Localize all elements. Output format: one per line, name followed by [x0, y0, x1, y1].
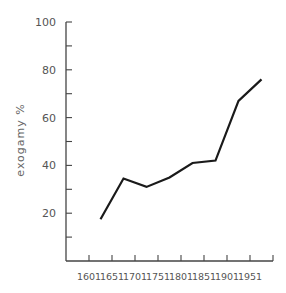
x-tick-label: 1801	[169, 271, 193, 282]
y-tick-label: 100	[35, 16, 56, 29]
y-tick-label: 40	[42, 159, 56, 172]
series-line-exogamy	[101, 79, 262, 219]
x-tick-label: 1651	[100, 271, 124, 282]
x-tick-label: 1901	[215, 271, 239, 282]
y-tick-label: 60	[42, 112, 56, 125]
data-series	[101, 79, 262, 219]
x-tick-label: 1751	[146, 271, 170, 282]
y-tick-label: 20	[42, 207, 56, 220]
x-tick-label: 1601	[77, 271, 101, 282]
x-axis-ticks: 16011651170117511801185119011951	[77, 255, 273, 282]
x-tick-label: 1851	[192, 271, 216, 282]
x-tick-label: 1701	[123, 271, 147, 282]
y-axis-title: exogamy %	[14, 103, 27, 176]
y-tick-label: 80	[42, 64, 56, 77]
axes	[66, 22, 273, 261]
line-chart: 20406080100 1601165117011751180118511901…	[0, 0, 286, 293]
x-tick-label: 1951	[238, 271, 262, 282]
